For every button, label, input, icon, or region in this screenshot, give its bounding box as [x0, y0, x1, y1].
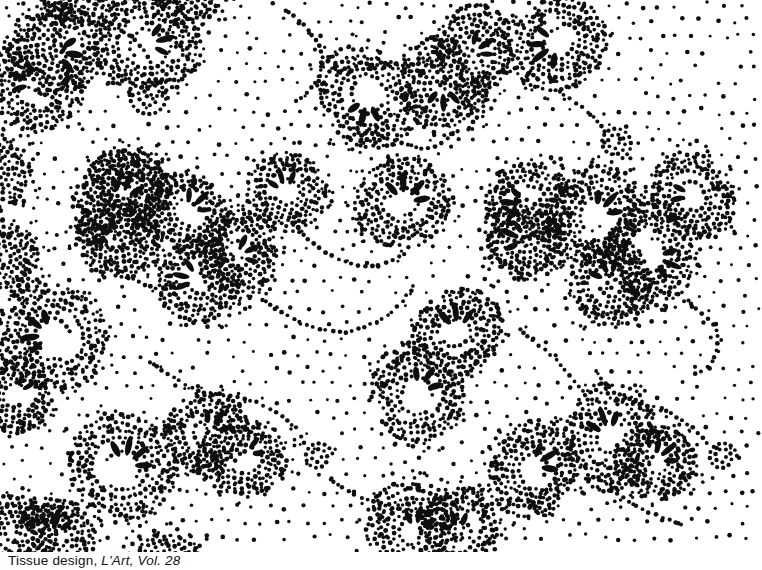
figure-caption: Tissue design, L'Art, Vol. 28	[8, 552, 180, 570]
caption-text-roman: Tissue design,	[8, 553, 101, 568]
caption-text-italic: L'Art, Vol. 28	[101, 553, 180, 568]
tissue-pattern-image	[0, 0, 762, 552]
scanned-plate-page: Tissue design, L'Art, Vol. 28	[0, 0, 762, 570]
